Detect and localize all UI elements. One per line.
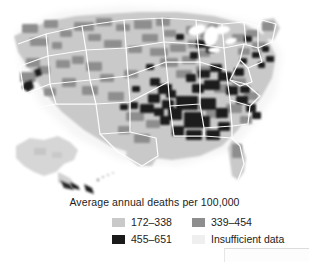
legend-label-insufficient-data: Insufficient data bbox=[211, 234, 284, 245]
legend-label-339-454: 339–454 bbox=[211, 217, 252, 228]
cropped-ui-edge bbox=[224, 248, 309, 262]
legend-swatch-455-651 bbox=[112, 235, 125, 244]
choropleth-figure: Average annual deaths per 100,000 172–33… bbox=[0, 0, 309, 262]
map-area[interactable] bbox=[0, 0, 309, 200]
legend-label-455-651: 455–651 bbox=[131, 234, 172, 245]
legend-swatch-172-338 bbox=[112, 218, 125, 227]
legend-item-172-338[interactable]: 172–338 bbox=[112, 214, 192, 231]
legend-title: Average annual deaths per 100,000 bbox=[0, 196, 309, 208]
legend-item-455-651[interactable]: 455–651 bbox=[112, 231, 192, 248]
legend-swatch-339-454 bbox=[192, 218, 205, 227]
legend-item-339-454[interactable]: 339–454 bbox=[192, 214, 302, 231]
hawaii-inset[interactable] bbox=[70, 172, 114, 194]
legend-swatch-insufficient bbox=[192, 235, 205, 244]
legend-label-172-338: 172–338 bbox=[131, 217, 172, 228]
legend-items: 172–338 339–454 455–651 Insufficient dat… bbox=[112, 214, 302, 248]
legend-item-insufficient-data[interactable]: Insufficient data bbox=[192, 231, 302, 248]
us-county-map[interactable] bbox=[0, 0, 309, 200]
alaska-inset[interactable] bbox=[16, 136, 78, 190]
